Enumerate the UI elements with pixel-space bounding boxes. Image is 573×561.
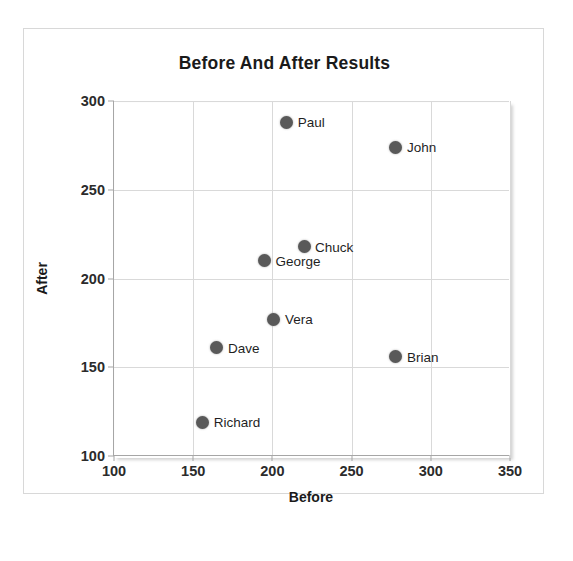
y-tick-label: 300 <box>81 93 114 109</box>
plot-area: 100150200250300 100150200250300350 PaulJ… <box>113 101 509 456</box>
scatter-point-label: Paul <box>287 115 325 130</box>
y-tick-label: 250 <box>81 182 114 198</box>
gridline-vertical <box>510 101 511 455</box>
gridline-horizontal <box>114 190 509 191</box>
scatter-point-label: Dave <box>217 340 260 355</box>
y-tick-label: 150 <box>81 359 114 375</box>
x-tick-label: 200 <box>260 455 284 479</box>
x-tick-label: 350 <box>498 455 522 479</box>
x-axis-title: Before <box>113 489 509 505</box>
gridline-vertical <box>272 101 273 455</box>
scatter-point-label: Brian <box>396 349 439 364</box>
chart-figure-frame: Before And After Results 100150200250300… <box>23 28 544 494</box>
scatter-point-label: Vera <box>274 312 313 327</box>
gridline-horizontal <box>114 279 509 280</box>
x-tick-label: 100 <box>102 455 126 479</box>
y-axis-title: After <box>34 101 58 456</box>
gridline-horizontal <box>114 367 509 368</box>
x-tick-label: 300 <box>419 455 443 479</box>
scatter-point-label: John <box>396 140 436 155</box>
gridline-vertical <box>193 101 194 455</box>
y-tick-label: 200 <box>81 271 114 287</box>
gridline-horizontal <box>114 101 509 102</box>
x-tick-label: 150 <box>181 455 205 479</box>
x-tick-label: 250 <box>339 455 363 479</box>
chart-title: Before And After Results <box>24 53 545 74</box>
scatter-point-label: Chuck <box>304 239 353 254</box>
scatter-point-label: George <box>264 253 320 268</box>
gridline-vertical <box>352 101 353 455</box>
scatter-point-label: Richard <box>203 415 261 430</box>
